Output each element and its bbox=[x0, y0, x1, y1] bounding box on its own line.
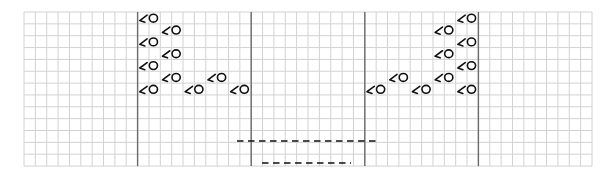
grid bbox=[24, 12, 592, 166]
knitting-chart bbox=[0, 0, 615, 179]
dashed-lines bbox=[237, 141, 376, 163]
